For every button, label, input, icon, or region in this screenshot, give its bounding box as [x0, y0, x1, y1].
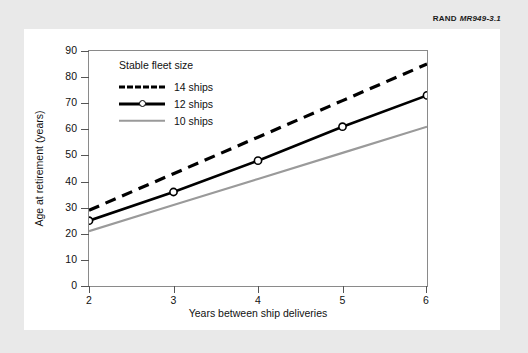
y-tick: 50	[81, 155, 89, 156]
legend-line	[119, 85, 165, 88]
y-tick: 0	[81, 286, 89, 287]
source-credit-id: MR949-3.1	[460, 14, 501, 23]
chart-legend: Stable fleet size 14 ships12 ships10 shi…	[119, 59, 213, 129]
x-tick: 3	[174, 286, 175, 293]
y-tick-label: 40	[65, 175, 77, 187]
x-tick-label: 3	[171, 294, 177, 306]
plot-area: 0102030405060708090 23456 Stable fleet s…	[88, 50, 428, 287]
y-tick-label: 0	[71, 279, 77, 291]
plot-inner: 0102030405060708090 23456 Stable fleet s…	[89, 51, 427, 286]
x-tick-label: 4	[255, 294, 261, 306]
y-tick-label: 80	[65, 70, 77, 82]
source-credit: RANDMR949-3.1	[433, 14, 501, 23]
y-tick: 30	[81, 208, 89, 209]
x-tick: 4	[258, 286, 259, 293]
y-tick: 60	[81, 129, 89, 130]
y-tick-label: 60	[65, 122, 77, 134]
y-tick: 70	[81, 103, 89, 104]
y-axis-label: Age at retirement (years)	[33, 50, 47, 287]
y-tick: 90	[81, 51, 89, 52]
legend-label: 10 ships	[174, 115, 213, 127]
x-tick-label: 2	[86, 294, 92, 306]
source-credit-org: RAND	[433, 14, 457, 23]
legend-label: 14 ships	[174, 81, 213, 93]
x-tick: 2	[89, 286, 90, 293]
figure-canvas: RANDMR949-3.1 Age at retirement (years) …	[0, 0, 528, 353]
series-line-10-ships	[89, 127, 427, 231]
legend-line	[119, 119, 165, 122]
y-tick-label: 50	[65, 148, 77, 160]
legend-swatch	[119, 115, 165, 126]
x-tick-label: 6	[423, 294, 429, 306]
series-marker	[89, 217, 93, 224]
x-axis-label: Years between ship deliveries	[88, 307, 428, 319]
y-tick-label: 70	[65, 96, 77, 108]
y-tick: 40	[81, 182, 89, 183]
y-tick: 10	[81, 260, 89, 261]
legend-swatch	[119, 98, 165, 109]
legend-item-12-ships: 12 ships	[119, 95, 213, 112]
legend-item-10-ships: 10 ships	[119, 112, 213, 129]
y-tick-label: 30	[65, 201, 77, 213]
y-tick-label: 10	[65, 253, 77, 265]
y-tick-label: 20	[65, 227, 77, 239]
legend-rows: 14 ships12 ships10 ships	[119, 78, 213, 129]
legend-label: 12 ships	[174, 98, 213, 110]
legend-swatch	[119, 81, 165, 92]
x-tick: 5	[343, 286, 344, 293]
y-tick: 20	[81, 234, 89, 235]
legend-title: Stable fleet size	[119, 59, 213, 71]
series-marker	[254, 157, 261, 164]
x-tick: 6	[426, 286, 427, 293]
series-marker	[170, 188, 177, 195]
y-tick: 80	[81, 77, 89, 78]
series-marker	[423, 92, 427, 99]
series-marker	[339, 123, 346, 130]
x-tick-label: 5	[340, 294, 346, 306]
y-tick-label: 90	[65, 44, 77, 56]
legend-marker	[139, 100, 146, 107]
legend-item-14-ships: 14 ships	[119, 78, 213, 95]
